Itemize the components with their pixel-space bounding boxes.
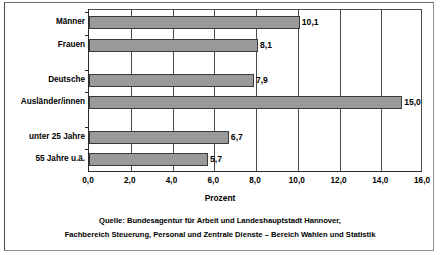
bar [89,16,300,29]
value-label-55-jahre: 5,7 [210,154,222,164]
gridline [214,10,215,171]
axis-tick [85,35,89,36]
gridline [298,10,299,171]
value-label-unter-25: 6,7 [231,132,243,142]
gridline [340,10,341,171]
xtick-label: 2,0 [124,176,135,185]
category-label-unter-25: unter 25 Jahre [29,132,85,142]
xtick-label: 10,0 [289,176,305,185]
source-note-line-1: Quelle: Bundesagentur für Arbeit und Lan… [0,216,440,225]
xtick-label: 12,0 [331,176,347,185]
bar [89,131,229,144]
xtick-label: 0,0 [82,176,93,185]
category-label-frauen: Frauen [58,40,85,50]
category-label-deutsche: Deutsche [48,75,85,85]
gridline [173,10,174,171]
value-label-deutsche: 7,9 [256,75,268,85]
bar [89,96,402,109]
category-label-55-jahre: 55 Jahre u.ä. [35,154,85,164]
axis-tick [85,70,89,71]
axis-tick [85,149,89,150]
x-axis-title: Prozent [0,193,440,203]
xtick-label: 8,0 [249,176,260,185]
value-label-maenner: 10,1 [302,17,319,27]
category-label-maenner: Männer [56,17,85,27]
bar [89,39,258,52]
value-label-auslaender: 15,0 [404,97,421,107]
chart-figure: Männer Frauen Deutsche Ausländer/innen u… [0,0,440,255]
gridline [381,10,382,171]
gridline [131,10,132,171]
gridline [256,10,257,171]
xtick-label: 16,0 [414,176,430,185]
source-note-line-2: Fachbereich Steuerung, Personal und Zent… [0,230,440,239]
axis-tick [85,92,89,93]
xtick-label: 6,0 [208,176,219,185]
xtick-label: 4,0 [166,176,177,185]
bar [89,153,208,166]
category-label-auslaender: Ausländer/innen [21,97,85,107]
value-label-frauen: 8,1 [260,40,272,50]
axis-tick [85,127,89,128]
xtick-label: 14,0 [372,176,388,185]
axis-tick [85,12,89,13]
plot-area [88,9,422,172]
bar [89,74,254,87]
